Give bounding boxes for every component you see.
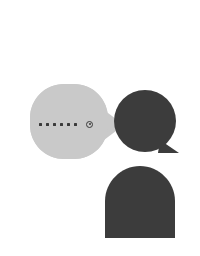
dark-arch-shape[interactable] (105, 166, 175, 238)
shapes-svg (0, 0, 200, 256)
dark-arch-body[interactable] (105, 166, 175, 238)
image-canvas (0, 0, 200, 256)
dark-round-speech-bubble[interactable] (114, 90, 179, 153)
dark-bubble-body[interactable] (114, 90, 176, 152)
target-ring-icon[interactable] (86, 121, 93, 128)
typing-indicator (39, 121, 93, 128)
indicator-dot-4 (60, 123, 63, 126)
indicator-dot-2 (46, 123, 49, 126)
indicator-dot-5 (67, 123, 70, 126)
indicator-dot-6 (74, 123, 77, 126)
indicator-dot-3 (53, 123, 56, 126)
indicator-dot-1 (39, 123, 42, 126)
